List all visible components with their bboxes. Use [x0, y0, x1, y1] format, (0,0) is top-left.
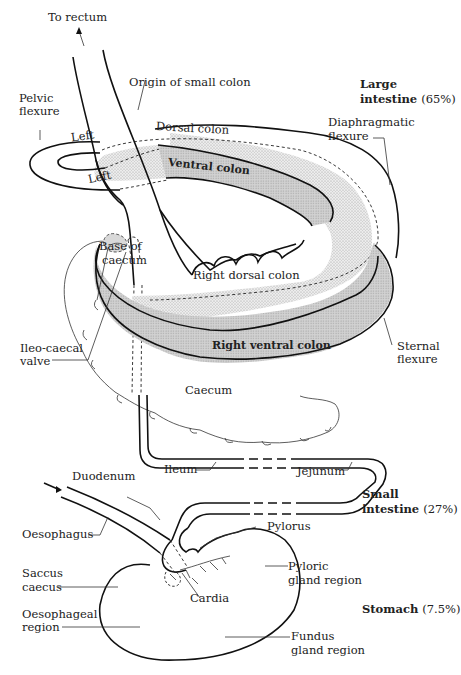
label-pyloric-gland-region-line2: gland region [288, 574, 362, 587]
large-intestine-name: intestine [360, 92, 417, 106]
label-base-of-caecum-line2: caecum [102, 254, 147, 267]
label-fundus-gland-region-line1: Fundus [291, 630, 334, 643]
label-pylorus: Pylorus [267, 520, 311, 533]
label-cardia: Cardia [190, 592, 229, 605]
label-duodenum: Duodenum [72, 470, 135, 483]
label-small-intestine-line2: intestine (27%) [362, 503, 458, 516]
label-pelvic-flexure-line2: flexure [19, 105, 60, 118]
label-large-intestine-line1: Large [360, 78, 397, 91]
stomach-percent: (7.5%) [422, 602, 460, 616]
label-large-intestine-line2: intestine (65%) [360, 93, 456, 106]
label-ileum: Ileum [164, 463, 197, 476]
digestive-tract-diagram: To rectum Origin of small colon Pelvic f… [0, 0, 461, 675]
label-to-rectum: To rectum [48, 11, 107, 24]
label-fundus-gland-region-line2: gland region [291, 644, 365, 657]
label-diaphragmatic-flexure-line2: flexure [328, 130, 369, 143]
small-intestine-percent: (27%) [423, 502, 458, 516]
rectum-arrow [76, 27, 84, 46]
label-small-intestine-line1: Small [362, 488, 399, 501]
stomach-shape [44, 483, 300, 660]
label-origin-small-colon: Origin of small colon [129, 76, 251, 89]
label-ileo-caecal-valve-line2: valve [20, 355, 50, 368]
label-jejunum: Jejunum [297, 465, 345, 478]
label-pyloric-gland-region-line1: Pyloric [288, 560, 328, 573]
small-intestine-name: intestine [362, 502, 419, 516]
large-intestine-percent: (65%) [421, 92, 456, 106]
label-right-ventral-colon: Right ventral colon [212, 339, 331, 352]
label-oesophagus: Oesophagus [22, 528, 93, 541]
label-diaphragmatic-flexure-line1: Diaphragmatic [328, 116, 415, 129]
label-caecum: Caecum [185, 384, 232, 397]
label-saccus-caecus-line1: Saccus [22, 567, 63, 580]
label-right-dorsal-colon: Right dorsal colon [193, 269, 300, 282]
label-oesophageal-region-line2: region [22, 621, 60, 634]
label-saccus-caecus-line2: caecus [22, 581, 62, 594]
label-sternal-flexure-line2: flexure [397, 353, 438, 366]
label-stomach: Stomach (7.5%) [362, 603, 461, 616]
label-base-of-caecum-line1: Base of [99, 240, 142, 253]
stomach-name: Stomach [362, 602, 418, 616]
